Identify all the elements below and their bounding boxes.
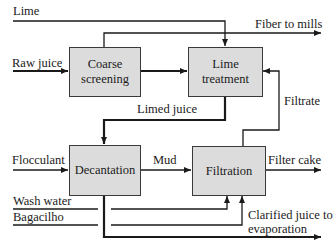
filtration-box: Filtration bbox=[192, 146, 266, 196]
flocculant-label: Flocculant bbox=[12, 153, 65, 167]
fiber-to-mills-label: Fiber to mills bbox=[255, 17, 322, 31]
clarified-juice-label-line2: evaporation bbox=[248, 222, 307, 236]
lime-label: Lime bbox=[13, 4, 39, 18]
wash-water-label: Wash water bbox=[13, 194, 71, 208]
bagacilho-stream-right bbox=[111, 196, 242, 225]
decantation-box: Decantation bbox=[69, 145, 141, 196]
coarse-screening-label: Coarse screening bbox=[75, 57, 135, 87]
mud-label: Mud bbox=[153, 153, 177, 167]
bagacilho-label: Bagacilho bbox=[13, 210, 64, 224]
clarified-juice-label-line1: Clarified juice to bbox=[248, 208, 333, 222]
lime-treatment-label: Lime treatment bbox=[196, 57, 256, 87]
lime-treatment-box: Lime treatment bbox=[188, 47, 263, 97]
raw-juice-label: Raw juice bbox=[12, 56, 62, 70]
filter-cake-label: Filter cake bbox=[268, 153, 321, 167]
filtration-label: Filtration bbox=[206, 164, 253, 179]
coarse-screening-box: Coarse screening bbox=[69, 47, 141, 97]
filtrate-label: Filtrate bbox=[284, 94, 320, 108]
decantation-label: Decantation bbox=[75, 163, 135, 178]
fiber-to-mills-stream bbox=[104, 33, 321, 47]
wash-water-stream-right bbox=[111, 196, 227, 209]
limed-juice-label: Limed juice bbox=[137, 102, 197, 116]
